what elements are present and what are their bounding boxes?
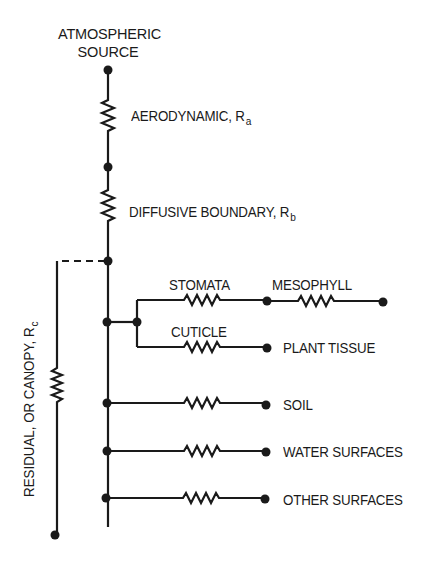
stomata-label: STOMATA — [169, 278, 230, 293]
cuticle-wire — [137, 342, 267, 352]
mesophyll-end-node — [379, 298, 388, 307]
other-surfaces-label: OTHER SURFACES — [283, 493, 403, 508]
stomata-end-node — [263, 297, 272, 306]
diffusive-boundary-subscript: b — [290, 211, 295, 223]
other-node — [261, 495, 270, 504]
spine-wire — [102, 70, 114, 527]
other-wire — [107, 493, 265, 503]
canopy-junction-node — [104, 257, 113, 266]
node-after-aerodynamic — [104, 163, 113, 172]
plant-split-node — [133, 318, 142, 327]
plant-tissue-label: PLANT TISSUE — [283, 341, 375, 356]
source-label-line1: ATMOSPHERIC — [58, 27, 158, 42]
water-junction-node — [103, 447, 112, 456]
soil-node — [262, 401, 271, 410]
canopy-subscript: c — [28, 321, 40, 326]
aerodynamic-label: AERODYNAMIC, Ra — [131, 109, 251, 124]
aerodynamic-subscript: a — [246, 115, 251, 127]
water-surfaces-label: WATER SURFACES — [283, 445, 403, 460]
plant-junction-node — [103, 318, 112, 327]
source-label-line2: SOURCE — [58, 45, 158, 60]
plant-tissue-node — [263, 344, 272, 353]
source-label: ATMOSPHERIC SOURCE — [58, 27, 158, 59]
canopy-text: RESIDUAL, OR CANOPY, R — [21, 327, 37, 497]
stomata-wire — [137, 295, 267, 305]
source-node — [104, 66, 113, 75]
soil-junction-node — [103, 399, 112, 408]
mesophyll-label: MESOPHYLL — [272, 278, 352, 293]
diffusive-boundary-label: DIFFUSIVE BOUNDARY, Rb — [129, 205, 296, 220]
cuticle-label: CUTICLE — [171, 325, 227, 340]
other-junction-node — [102, 494, 111, 503]
mesophyll-wire — [267, 296, 383, 306]
canopy-wire — [52, 261, 62, 535]
soil-label: SOIL — [283, 398, 313, 413]
canopy-end-node — [51, 531, 60, 540]
water-node — [262, 448, 271, 457]
canopy-label: RESIDUAL, OR CANOPY, Rc — [22, 321, 37, 497]
soil-wire — [108, 398, 266, 408]
diffusive-boundary-text: DIFFUSIVE BOUNDARY, R — [129, 204, 289, 220]
aerodynamic-text: AERODYNAMIC, R — [131, 108, 245, 124]
water-wire — [108, 446, 266, 456]
